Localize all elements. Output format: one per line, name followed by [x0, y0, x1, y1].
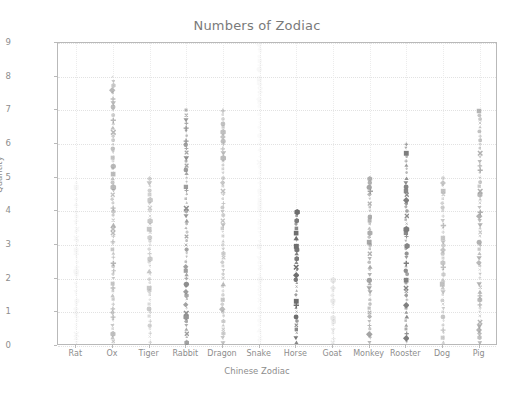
data-marker [257, 339, 262, 343]
x-axis-label: Chinese Zodiac [0, 366, 514, 376]
y-tick-mark-9 [54, 42, 57, 43]
y-tick-label-9: 9 [0, 37, 11, 47]
data-column-rooster[interactable] [395, 142, 417, 344]
x-tick-label-rat: Rat [69, 349, 82, 358]
data-marker [441, 340, 446, 344]
y-tick-label-1: 1 [0, 306, 11, 316]
x-tick-label-snake: Snake [246, 349, 270, 358]
data-marker [220, 340, 226, 344]
data-marker [330, 340, 336, 344]
x-tick-mark-pig [479, 345, 480, 348]
data-marker [294, 260, 299, 264]
y-tick-label-3: 3 [0, 239, 11, 249]
data-marker [295, 268, 299, 272]
data-column-rabbit[interactable] [175, 108, 197, 344]
x-tick-mark-dragon [222, 345, 223, 348]
data-marker [405, 340, 408, 344]
data-column-monkey[interactable] [359, 176, 381, 344]
x-tick-mark-rabbit [185, 345, 186, 348]
y-tick-mark-6 [54, 143, 57, 144]
x-tick-label-monkey: Monkey [353, 349, 384, 358]
x-tick-label-goat: Goat [322, 349, 341, 358]
gridline-y-9 [58, 43, 496, 44]
x-tick-label-dragon: Dragon [207, 349, 236, 358]
y-tick-label-0: 0 [0, 340, 11, 350]
y-tick-mark-1 [54, 311, 57, 312]
data-column-snake[interactable] [249, 41, 271, 344]
data-marker [294, 340, 299, 344]
data-marker [111, 339, 116, 343]
data-column-rat[interactable] [65, 176, 87, 344]
x-tick-mark-horse [295, 345, 296, 348]
x-tick-label-tiger: Tiger [139, 349, 159, 358]
y-tick-label-6: 6 [0, 138, 11, 148]
chart-title: Numbers of Zodiac [0, 18, 514, 33]
x-tick-mark-ox [112, 345, 113, 348]
y-tick-label-7: 7 [0, 104, 11, 114]
data-marker [405, 222, 408, 226]
x-tick-mark-snake [259, 345, 260, 348]
data-column-dog[interactable] [432, 176, 454, 344]
data-marker [367, 340, 372, 344]
x-tick-label-ox: Ox [106, 349, 117, 358]
x-tick-mark-monkey [369, 345, 370, 348]
data-marker [294, 293, 298, 297]
y-tick-mark-8 [54, 76, 57, 77]
chart-figure: Numbers of Zodiac 0123456789 Quantity Ra… [0, 0, 514, 401]
x-tick-mark-tiger [149, 345, 150, 348]
y-tick-mark-2 [54, 278, 57, 279]
x-tick-label-rooster: Rooster [390, 349, 421, 358]
y-axis-label: Quantity [0, 156, 4, 193]
y-tick-mark-3 [54, 244, 57, 245]
y-tick-label-4: 4 [0, 205, 11, 215]
data-column-pig[interactable] [469, 108, 491, 344]
y-tick-mark-5 [54, 177, 57, 178]
x-tick-label-rabbit: Rabbit [172, 349, 198, 358]
y-tick-label-8: 8 [0, 71, 11, 81]
x-tick-label-dog: Dog [434, 349, 450, 358]
y-tick-label-2: 2 [0, 273, 11, 283]
data-marker [477, 340, 483, 344]
gridline-y-0 [58, 346, 496, 347]
data-marker [74, 340, 79, 344]
x-tick-mark-rat [75, 345, 76, 348]
data-column-horse[interactable] [285, 209, 307, 344]
x-tick-label-pig: Pig [473, 349, 485, 358]
data-marker [294, 226, 299, 230]
x-tick-mark-rooster [405, 345, 406, 348]
data-column-goat[interactable] [322, 277, 344, 344]
y-tick-mark-0 [54, 345, 57, 346]
y-tick-mark-7 [54, 109, 57, 110]
data-marker [184, 340, 189, 344]
x-tick-mark-dog [442, 345, 443, 348]
data-column-ox[interactable] [102, 75, 124, 344]
data-marker [295, 239, 298, 243]
plot-area [57, 42, 497, 345]
x-tick-mark-goat [332, 345, 333, 348]
data-column-tiger[interactable] [139, 176, 161, 344]
data-marker [148, 340, 153, 344]
x-tick-label-horse: Horse [284, 349, 307, 358]
y-tick-mark-4 [54, 210, 57, 211]
data-column-dragon[interactable] [212, 108, 234, 344]
